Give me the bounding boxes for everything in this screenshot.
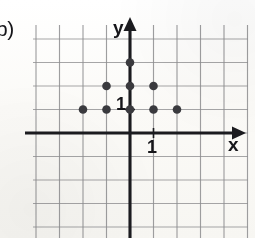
x-axis-tick-label: 1 <box>147 138 157 156</box>
data-point <box>149 82 158 91</box>
data-point <box>126 58 135 67</box>
data-points <box>0 0 255 238</box>
y-axis-label: y <box>113 18 124 37</box>
exercise-part-label: b) <box>0 18 14 39</box>
data-point <box>102 82 111 91</box>
data-point <box>149 105 158 114</box>
data-point <box>79 105 88 114</box>
data-point <box>126 105 135 114</box>
data-point <box>173 105 182 114</box>
x-axis-label: x <box>228 135 239 154</box>
data-point <box>126 82 135 91</box>
y-axis-tick-label: 1 <box>116 95 126 113</box>
coordinate-plot <box>0 0 255 238</box>
coordinate-grid-screenshot: b) x y 1 1 <box>0 0 255 238</box>
data-point <box>102 105 111 114</box>
